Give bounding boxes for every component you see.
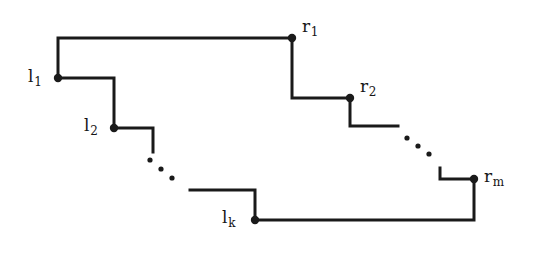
- upper-left-step-path: [58, 38, 292, 78]
- lower-right-ellipsis: [404, 135, 431, 156]
- r2-stub-path: [350, 98, 398, 126]
- rm-step-path: [440, 168, 474, 179]
- r1-to-r2-step-path: [292, 38, 350, 98]
- vertex-label-l1-base: l: [28, 66, 34, 86]
- vertex-label-l1: l1: [28, 68, 42, 88]
- l2-stub-path: [114, 128, 153, 152]
- vertex-label-lk-base: l: [222, 207, 228, 227]
- staircase-polyline-group: [58, 38, 474, 220]
- vertex-label-l2-subscript: 2: [90, 124, 98, 138]
- vertex-label-lk: lk: [222, 209, 236, 229]
- vertex-label-l2-base: l: [84, 115, 90, 135]
- vertex-dot-rm: [470, 175, 478, 183]
- vertex-dot-l1: [54, 74, 62, 82]
- ellipsis-dot: [404, 135, 409, 140]
- vertex-label-rm-subscript: m: [492, 175, 504, 189]
- staircase-diagram-svg: [0, 0, 541, 258]
- vertex-label-rm: rm: [484, 168, 504, 188]
- vertex-label-r2: r2: [360, 78, 377, 98]
- vertex-dot-r2: [346, 94, 354, 102]
- vertex-dot-r1: [288, 34, 296, 42]
- vertex-dot-l2: [110, 124, 118, 132]
- lower-left-ellipsis: [147, 157, 174, 180]
- bottom-right-closure-path: [255, 179, 474, 220]
- ellipsis-dot: [158, 166, 163, 171]
- vertex-label-l1-subscript: 1: [34, 75, 42, 89]
- vertex-label-r1-subscript: 1: [310, 25, 318, 39]
- vertex-label-lk-subscript: k: [228, 216, 236, 230]
- vertex-dot-lk: [251, 216, 259, 224]
- ellipsis-dot: [169, 175, 174, 180]
- vertex-label-l2: l2: [84, 117, 98, 137]
- ellipsis-dot: [415, 143, 420, 148]
- ellipsis-dot: [426, 151, 431, 156]
- staircase-figure: l1 l2 lk r1 r2 rm: [0, 0, 541, 258]
- vertex-label-r2-subscript: 2: [368, 85, 376, 99]
- ellipsis-dot: [147, 157, 152, 162]
- vertex-dot-group: [54, 34, 478, 224]
- vertex-label-r1: r1: [302, 18, 319, 38]
